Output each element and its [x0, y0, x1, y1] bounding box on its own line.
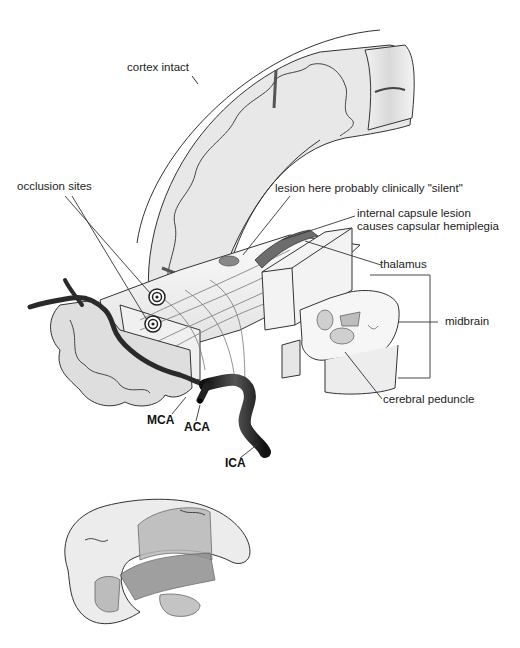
label-ica: ICA — [225, 457, 246, 470]
label-internal-capsule-line2: causes capsular hemiplegia — [357, 220, 499, 233]
anatomy-diagram: cortex intact occlusion sites lesion her… — [0, 0, 520, 648]
occlusion-marker-lower — [145, 316, 161, 332]
silent-lesion-spot — [219, 256, 239, 266]
label-internal-capsule-line1: internal capsule lesion — [357, 207, 471, 220]
label-midbrain: midbrain — [445, 315, 489, 328]
inset-hemisphere — [65, 499, 250, 623]
label-lesion-silent: lesion here probably clinically "silent" — [275, 182, 463, 195]
label-cerebral-peduncle: cerebral peduncle — [383, 393, 474, 406]
label-thalamus: thalamus — [380, 258, 427, 271]
label-aca: ACA — [184, 421, 210, 434]
label-cortex-intact: cortex intact — [127, 61, 189, 74]
label-mca: MCA — [147, 414, 174, 427]
label-occlusion-sites: occlusion sites — [17, 180, 92, 193]
occlusion-marker-upper — [149, 289, 165, 305]
